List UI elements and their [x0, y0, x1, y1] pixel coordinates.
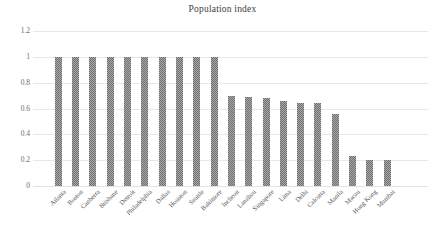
y-tick-label: 0.4	[2, 130, 30, 138]
y-tick-label: 1	[2, 53, 30, 61]
bar	[211, 57, 218, 186]
x-tick-label: Atlanta	[48, 188, 67, 207]
bar	[141, 57, 148, 186]
bar	[280, 101, 287, 186]
bar	[297, 103, 304, 186]
bar	[349, 156, 356, 186]
x-tick-label: Manila	[326, 188, 344, 206]
y-axis: 00.20.40.60.811.2	[0, 31, 30, 186]
bar	[55, 57, 62, 186]
plot-area	[33, 31, 428, 186]
bar	[263, 98, 270, 186]
x-tick-label: Mumbai	[375, 188, 396, 209]
bar	[89, 57, 96, 186]
x-tick-label: Lima	[277, 188, 292, 203]
y-tick-label: 0.8	[2, 79, 30, 87]
y-tick-label: 0.6	[2, 105, 30, 113]
bar	[72, 57, 79, 186]
bar	[332, 114, 339, 186]
bar	[124, 57, 131, 186]
bar	[366, 160, 373, 186]
bar	[176, 57, 183, 186]
population-index-chart: Population index 00.20.40.60.811.2 Atlan…	[0, 0, 445, 232]
bar	[384, 160, 391, 186]
x-tick-label: Calcutta	[306, 188, 326, 208]
gridline-0	[33, 186, 428, 187]
bar	[228, 96, 235, 186]
bar	[314, 103, 321, 186]
y-tick-label: 0	[2, 182, 30, 190]
bar	[245, 97, 252, 186]
x-axis: AtlantaBostonCanberraBrisbaneDetroitPhil…	[33, 188, 433, 232]
bar-series	[33, 31, 428, 186]
y-tick-label: 0.2	[2, 156, 30, 164]
bar	[107, 57, 114, 186]
chart-title: Population index	[0, 4, 445, 14]
bar	[159, 57, 166, 186]
y-tick-label: 1.2	[2, 27, 30, 35]
bar	[193, 57, 200, 186]
x-tick-label: Brisbane	[97, 188, 119, 210]
